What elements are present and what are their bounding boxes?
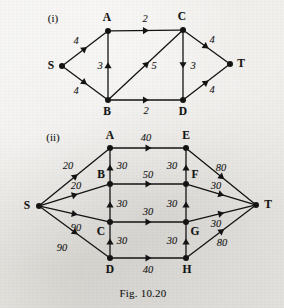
arrowhead-graph-i-D-T	[202, 80, 209, 87]
edge-weight-graph-ii-C-G: 30	[143, 207, 154, 218]
arrowhead-graph-i-S-B	[80, 78, 87, 84]
arrowhead-graph-ii-H-G	[182, 239, 189, 245]
part-label-i: (i)	[48, 13, 58, 24]
edge-weight-graph-ii-S-D: 90	[57, 243, 68, 254]
edge-weight-graph-ii-D-H: 40	[143, 265, 154, 276]
arrowhead-graph-i-B-D	[143, 96, 149, 103]
node-label-graph-ii-F: F	[191, 169, 198, 181]
node-graph-ii-E[interactable]	[183, 145, 189, 151]
node-label-graph-i-A: A	[103, 12, 111, 24]
arrowhead-graph-ii-D-H	[146, 254, 152, 261]
edge-weight-graph-ii-G-T: 30	[211, 219, 222, 230]
node-graph-ii-F[interactable]	[183, 181, 189, 187]
arrowhead-graph-ii-F-E	[182, 165, 189, 171]
arrowhead-graph-i-C-D	[179, 62, 186, 68]
node-label-graph-i-S: S	[48, 60, 54, 72]
node-graph-ii-A[interactable]	[107, 145, 113, 151]
arrowhead-graph-ii-C-G	[146, 218, 152, 225]
arrowhead-graph-ii-H-T	[217, 229, 224, 235]
node-graph-ii-S[interactable]	[36, 203, 42, 209]
arrowhead-graph-ii-C-B	[106, 201, 113, 207]
edge-weight-graph-ii-E-T: 80	[216, 163, 227, 174]
arrowhead-graph-ii-A-E	[146, 144, 152, 151]
node-graph-i-B[interactable]	[105, 97, 111, 103]
figure-page: (i)(ii)442352344SACBDT202090904030503030…	[0, 0, 284, 308]
node-label-graph-ii-B: B	[97, 169, 105, 181]
arrowhead-graph-i-A-C	[143, 27, 149, 34]
node-graph-i-T[interactable]	[227, 61, 233, 67]
node-graph-ii-T[interactable]	[253, 202, 259, 208]
edge-weight-graph-ii-D-C: 30	[117, 236, 128, 247]
node-label-graph-ii-D: D	[106, 264, 114, 276]
node-graph-ii-H[interactable]	[183, 255, 189, 261]
graph-i	[59, 27, 233, 104]
node-graph-i-D[interactable]	[180, 97, 186, 103]
node-graph-i-S[interactable]	[59, 63, 65, 69]
edge-weight-graph-ii-F-T: 30	[211, 181, 222, 192]
edge-weight-graph-ii-B-F: 50	[143, 170, 154, 181]
edge-weight-graph-i-C-T: 4	[209, 35, 214, 46]
node-label-graph-i-T: T	[237, 58, 245, 70]
arrowhead-graph-ii-G-T	[218, 211, 225, 218]
edge-weight-graph-i-C-D: 3	[190, 61, 195, 72]
edge-weight-graph-i-A-C: 2	[142, 14, 147, 25]
edge-weight-graph-ii-S-C: 90	[71, 223, 82, 234]
arrowhead-graph-ii-B-A	[106, 165, 113, 171]
edge-weight-graph-i-S-A: 4	[73, 36, 78, 47]
edge-weight-graph-ii-G-F: 30	[167, 199, 178, 210]
edge-weight-graph-ii-B-A: 30	[117, 161, 128, 172]
node-graph-ii-D[interactable]	[107, 255, 113, 261]
edge-weight-graph-i-B-D: 2	[143, 106, 148, 117]
figure-caption: Fig. 10.20	[120, 288, 167, 299]
node-label-graph-ii-S: S	[24, 200, 30, 212]
network-flow-diagram	[0, 0, 284, 308]
node-label-graph-ii-A: A	[106, 130, 114, 142]
node-graph-i-A[interactable]	[105, 28, 111, 34]
edge-weight-graph-ii-H-G: 30	[167, 236, 178, 247]
edge-weight-graph-i-B-A: 3	[97, 61, 102, 72]
arrowhead-graph-ii-D-C	[106, 239, 113, 245]
node-graph-i-C[interactable]	[180, 27, 186, 33]
node-label-graph-i-B: B	[103, 106, 111, 118]
edge-weight-graph-ii-C-B: 30	[117, 199, 128, 210]
node-label-graph-i-C: C	[178, 11, 186, 23]
node-label-graph-ii-T: T	[264, 199, 272, 211]
edge-weight-graph-ii-S-B: 20	[71, 181, 82, 192]
node-label-graph-ii-E: E	[182, 130, 190, 142]
arrowhead-graph-ii-B-F	[146, 180, 152, 187]
edge-weight-graph-i-B-C: 5	[151, 61, 156, 72]
node-graph-ii-C[interactable]	[107, 219, 113, 225]
node-label-graph-ii-H: H	[183, 264, 192, 276]
node-label-graph-ii-G: G	[191, 226, 200, 238]
arrowhead-graph-i-B-A	[104, 62, 111, 68]
part-label-ii: (ii)	[46, 132, 59, 143]
edge-weight-graph-ii-H-T: 80	[217, 238, 228, 249]
node-graph-ii-B[interactable]	[107, 181, 113, 187]
arrowhead-graph-ii-S-C	[71, 210, 78, 217]
node-graph-ii-G[interactable]	[183, 219, 189, 225]
edge-weight-graph-i-S-B: 4	[73, 86, 78, 97]
edge-weight-graph-ii-A-E: 40	[141, 133, 152, 144]
arrowhead-graph-i-C-T	[202, 42, 209, 48]
arrowhead-graph-i-S-A	[80, 47, 87, 54]
edge-weight-graph-ii-F-E: 30	[167, 161, 178, 172]
node-label-graph-i-D: D	[179, 106, 187, 118]
node-label-graph-ii-C: C	[97, 226, 105, 238]
edge-weight-graph-ii-S-A: 20	[63, 161, 74, 172]
edge-weight-graph-i-D-T: 4	[209, 85, 214, 96]
arrowhead-graph-ii-G-F	[182, 201, 189, 207]
